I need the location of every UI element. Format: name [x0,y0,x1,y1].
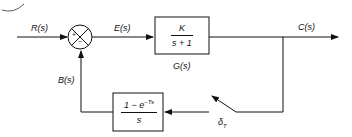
forward-transfer-function: K s + 1 [170,23,194,48]
feedback-numerator: 1 − e−Ts [124,99,154,110]
feedback-denominator: s [137,115,142,125]
output-label: C(s) [298,22,315,32]
feedback-transfer-function: 1 − e−Ts s [119,99,159,125]
feedback-label: B(s) [58,75,75,85]
forward-block-name: G(s) [173,61,191,71]
error-label: E(s) [114,23,131,33]
plus-sign: + [72,31,76,38]
input-label: R(s) [31,23,48,33]
feedback-return-arrow [81,51,113,112]
feedback-branch [236,37,283,112]
forward-denominator: s + 1 [172,38,192,48]
minus-sign: − [78,38,82,45]
forward-numerator: K [179,23,185,33]
sampler-switch [212,96,236,112]
sampler-label: δT [218,117,227,129]
decorative-curve [2,4,24,11]
